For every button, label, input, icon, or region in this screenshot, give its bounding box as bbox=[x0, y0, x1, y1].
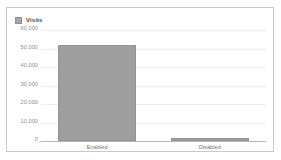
y-axis-tick-label: 60.000 bbox=[21, 25, 38, 31]
chart-legend: Visits bbox=[15, 15, 43, 25]
x-axis-labels: EnabledDisabled bbox=[41, 144, 266, 156]
y-axis-tick-label: 30.000 bbox=[21, 81, 38, 87]
y-axis-tick-label: 0 bbox=[35, 136, 38, 142]
bar-disabled[interactable] bbox=[171, 138, 249, 141]
y-axis-tick-label: 50.000 bbox=[21, 44, 38, 50]
y-axis-tick-label: 10.000 bbox=[21, 118, 38, 124]
x-axis-tick-label: Enabled bbox=[87, 144, 108, 150]
legend-square-icon bbox=[15, 17, 22, 24]
chart-screenshot: Visits 010.00020.00030.00040.00050.00060… bbox=[0, 0, 281, 160]
bar-enabled[interactable] bbox=[58, 45, 136, 141]
legend-item-label: Visits bbox=[26, 16, 43, 24]
plot-area: 010.00020.00030.00040.00050.00060.000 bbox=[41, 30, 266, 142]
gridline bbox=[41, 30, 266, 31]
y-axis-tick-mark bbox=[39, 141, 41, 142]
chart-panel: Visits 010.00020.00030.00040.00050.00060… bbox=[6, 7, 274, 152]
y-axis-tick-label: 20.000 bbox=[21, 99, 38, 105]
x-axis-line bbox=[41, 141, 266, 142]
x-axis-tick-label: Disabled bbox=[199, 144, 221, 150]
y-axis-tick-label: 40.000 bbox=[21, 62, 38, 68]
